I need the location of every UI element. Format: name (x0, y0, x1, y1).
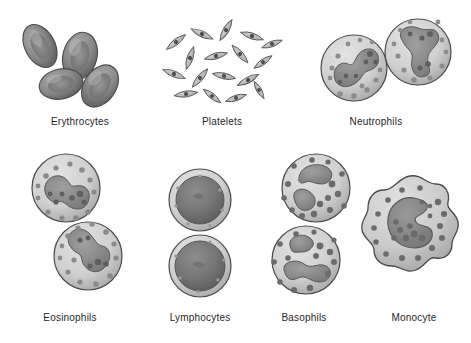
platelet (204, 50, 229, 62)
monocyte-illustration (352, 172, 470, 292)
lymphocyte-cell (169, 235, 231, 297)
label-monocyte: Monocyte (368, 312, 460, 323)
erythrocytes-illustration (14, 18, 144, 113)
platelet (225, 92, 248, 104)
platelets-illustration (160, 22, 285, 110)
label-lymphocytes: Lymphocytes (148, 312, 252, 323)
basophil-cell (281, 154, 350, 222)
label-basophils: Basophils (258, 312, 350, 323)
basophil-cell (271, 226, 340, 294)
platelet (190, 26, 214, 42)
platelet (252, 53, 273, 70)
lymphocytes-illustration (152, 166, 252, 306)
platelet (217, 18, 234, 42)
eosinophil-cell (32, 154, 100, 222)
platelet (240, 29, 265, 42)
platelet (230, 43, 251, 65)
cell-group-erythrocytes (14, 18, 144, 113)
platelet (174, 89, 199, 98)
platelet (165, 32, 188, 52)
cell-group-eosinophils (22, 150, 132, 300)
platelet (162, 67, 187, 82)
neutrophils-illustration (310, 10, 462, 110)
cell-group-neutrophils (310, 10, 462, 110)
platelet (202, 87, 223, 105)
label-platelets: Platelets (180, 116, 264, 127)
label-neutrophils: Neutrophils (328, 116, 424, 127)
platelet (183, 46, 196, 71)
platelet (212, 71, 237, 82)
label-erythrocytes: Erythrocytes (32, 116, 128, 127)
platelet (190, 67, 210, 89)
lymphocyte-cell (169, 169, 231, 231)
platelet (252, 80, 266, 100)
erythrocyte-cell (16, 19, 64, 74)
blood-cell-figure: Erythrocytes (0, 0, 471, 343)
eosinophil-cell (54, 221, 122, 290)
label-eosinophils: Eosinophils (22, 312, 118, 323)
neutrophil-cell (321, 35, 387, 101)
cell-group-lymphocytes (152, 166, 252, 306)
cell-group-monocyte (352, 172, 470, 292)
eosinophils-illustration (22, 150, 132, 300)
cell-group-platelets (160, 22, 285, 110)
monocyte-cell (362, 176, 459, 271)
platelet (261, 38, 284, 51)
neutrophil-cell (385, 19, 451, 85)
